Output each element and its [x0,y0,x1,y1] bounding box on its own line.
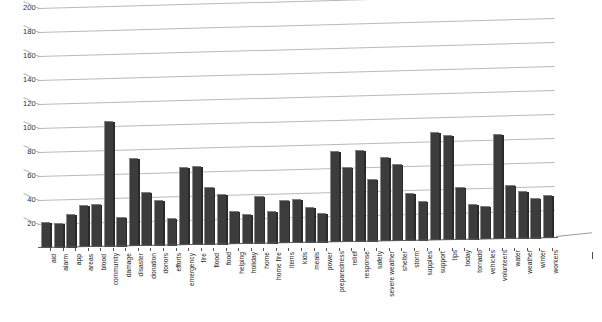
bar [204,187,213,245]
x-axis-tick-label: support [439,251,446,321]
bar-side-face [490,207,492,240]
bar [468,204,477,240]
x-axis-tick [188,248,189,251]
x-axis-tick [176,248,177,251]
x-axis-tick-label: volunteers [501,250,508,320]
bar-side-face [352,168,354,243]
bar-side-face [339,152,341,242]
bar-side-face [414,194,416,241]
bar [141,192,150,246]
bar-side-face [540,199,542,239]
bar-side-face [251,215,253,244]
x-axis-tick-label: vehicles [489,250,496,320]
bar [91,204,100,247]
bar-side-face [50,223,52,248]
x-axis-tick [163,248,164,251]
x-axis-tick-label: items [288,252,295,322]
x-axis-tick-label: weather [526,250,533,320]
bar [380,157,389,241]
bar-side-face [201,167,203,245]
x-axis-tick-label: workers [552,250,559,320]
bar-side-face [301,200,303,243]
bar [367,179,376,241]
bar [317,213,326,243]
bar-side-face [515,186,517,239]
x-axis-tick-label: home [263,252,270,322]
x-axis-tick [113,248,114,251]
x-axis-labels: aidalarmappareasbloodcommunitydamagedisa… [38,248,594,322]
bar-side-face [188,168,190,245]
bar [543,195,552,238]
bar-side-face [502,135,504,240]
x-axis-tick-label: flood [213,253,220,322]
bar [41,222,50,248]
bar-side-face [439,133,441,240]
bar [254,196,263,244]
bar [217,194,226,244]
x-axis-tick-label: donors [162,253,169,322]
bar-side-face [465,188,467,240]
x-axis-tick-label: shelter [401,251,408,321]
bar-side-face [527,192,529,239]
bar-side-face [326,214,328,243]
bar [530,198,539,239]
x-axis-tick-label: aid [50,254,57,322]
x-axis-tick-label: safety [376,251,383,321]
x-axis-tick [213,248,214,251]
bar-side-face [477,205,479,240]
x-axis-tick-label: emergency [188,253,195,322]
bar-side-face [176,219,178,246]
x-axis-tick [288,248,289,251]
x-axis-tick-label: damage [125,253,132,322]
x-axis-tick-label: home fire [275,252,282,322]
bar-side-face [226,195,228,244]
bar-side-face [239,212,241,245]
x-axis-tick [75,248,76,251]
bar [455,187,464,240]
x-axis-tick [276,248,277,251]
x-axis-tick-label: tornado [476,250,483,320]
x-axis-tick [63,248,64,251]
bar-side-face [63,224,65,248]
bar [405,193,414,241]
bar [518,191,527,239]
bar [505,185,514,239]
bar [342,167,351,243]
bar-side-face [88,206,90,247]
x-axis-tick-label: blood [100,254,107,322]
bar-side-face [101,205,103,247]
bar-side-face [151,193,153,246]
bar-side-face [75,215,77,248]
x-axis-tick-label: meals [313,252,320,322]
bar [493,134,502,240]
bar [279,200,288,243]
bar-side-face [377,180,379,241]
bar [66,214,75,248]
x-axis-tick-label: areas [87,254,94,322]
bar-side-face [264,197,266,244]
bar-side-face [452,136,454,241]
bar-side-face [138,159,140,247]
x-axis-tick [150,248,151,251]
bar-chart: 20018016014012010080604020 aidalarmappar… [0,0,602,322]
x-axis-tick-label: storm [413,251,420,321]
bar [330,151,339,242]
x-axis-tick [50,248,51,251]
x-axis-tick-label: food [225,252,232,322]
bar-side-face [214,188,216,245]
bar-side-face [113,122,115,247]
bar-side-face [289,201,291,243]
x-axis-tick [138,248,139,251]
x-axis-tick-label: tips [451,250,458,320]
x-axis-tick-label: water [514,250,521,320]
bar [79,205,88,247]
x-axis-tick-label: preparedness [338,251,345,321]
x-axis-tick-label: efforts [175,253,182,322]
x-axis-tick [125,248,126,251]
x-axis-tick-label: alarm [62,254,69,322]
bar [54,223,63,248]
bar [305,207,314,243]
x-axis-tick-label: winter [539,250,546,320]
bar [129,158,138,247]
bar [443,135,452,241]
